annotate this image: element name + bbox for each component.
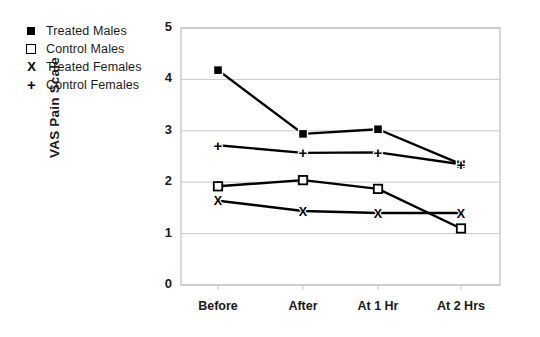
series-line [218,70,461,164]
data-point-filled-square [214,66,223,75]
plot-frame [181,28,500,285]
data-point-open-square [214,182,222,190]
data-point-open-square [457,224,465,232]
x-tick-label: At 1 Hr [333,299,423,313]
data-point-plus: + [214,137,223,154]
data-series-group: XXXX++++ [214,66,466,233]
y-tick-label: 1 [148,225,172,240]
y-tick-label: 3 [148,122,172,137]
plot-border [181,28,500,285]
data-point-filled-square [374,125,383,134]
data-point-plus: + [374,144,383,161]
data-point-x: X [214,194,223,208]
chart-screenshot: Treated Males Control Males X Treated Fe… [0,0,540,337]
x-tick-label: Before [173,299,263,313]
gridlines [181,28,500,285]
data-point-open-square [374,185,382,193]
data-point-open-square [299,176,307,184]
data-point-x: X [374,207,383,221]
x-axis-ticks [218,285,461,290]
y-tick-label: 0 [148,276,172,291]
data-point-filled-square [299,129,308,138]
data-point-plus: + [457,156,466,173]
data-point-x: X [457,207,466,221]
y-tick-label: 5 [148,19,172,34]
data-point-plus: + [299,144,308,161]
data-point-x: X [299,205,308,219]
y-tick-label: 2 [148,173,172,188]
line-chart: VAS Pain Scale XXXX++++ 012345 BeforeAft… [0,0,540,337]
x-tick-label: At 2 Hrs [416,299,506,313]
plot-area: XXXX++++ [0,0,540,337]
y-tick-label: 4 [148,70,172,85]
